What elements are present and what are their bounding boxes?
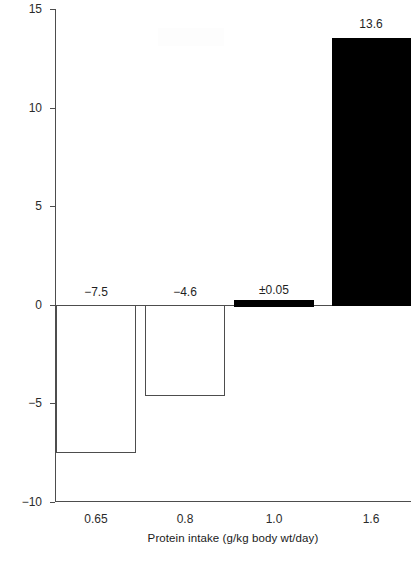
y-tick-mark: −5 [50,403,55,404]
x-axis-line [55,501,411,502]
x-tick-label-1: 0.8 [177,513,194,525]
chart-figure: Daily nitrogen balance (mg N/kg body wt/… [0,0,418,561]
y-tick-label: −10 [22,496,42,508]
y-tick-mark: −10 [50,502,55,503]
bar-value-label-3: 13.6 [359,18,382,30]
y-tick-label: 0 [35,299,42,311]
plot-area: 15 10 5 0 −5 −10 −7.5 0.65 −4.6 0.8 ± [55,9,411,502]
bar-3 [332,38,411,306]
x-tick-label-0: 0.65 [84,513,107,525]
y-axis-title: Daily nitrogen balance (mg N/kg body wt/… [0,0,22,561]
y-tick-mark: 5 [50,206,55,207]
bar-0 [56,305,136,453]
bar-2 [234,300,314,307]
bar-1 [145,305,225,396]
bar-value-label-0: −7.5 [84,286,108,298]
y-tick-mark: 15 [50,9,55,10]
x-axis-title: Protein intake (g/kg body wt/day) [55,532,411,544]
y-tick-label: 10 [29,102,42,114]
bar-value-label-2: ±0.05 [259,284,289,296]
y-tick-label: 15 [29,3,42,15]
y-tick-mark: 10 [50,108,55,109]
x-tick-label-3: 1.6 [363,513,380,525]
bar-value-label-1: −4.6 [173,286,197,298]
y-tick-label: −5 [28,397,42,409]
y-tick-label: 5 [35,200,42,212]
x-tick-label-2: 1.0 [266,513,283,525]
y-tick-mark: 0 [50,305,55,306]
